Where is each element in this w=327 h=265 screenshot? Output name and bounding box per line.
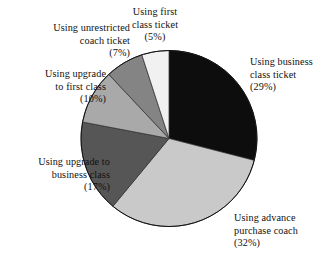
- pie-label-line: Using upgrade to: [0, 156, 110, 169]
- pie-label-percent: (10%): [2, 93, 106, 106]
- pie-label-line: to first class: [2, 81, 106, 94]
- pie-label-line: Using advance: [234, 212, 327, 225]
- pie-label-line: purchase coach: [234, 225, 327, 238]
- pie-label-percent: (7%): [8, 47, 130, 60]
- pie-label-line: coach ticket: [8, 35, 130, 48]
- pie-chart-figure: Using first class ticket (5%) Using unre…: [0, 0, 327, 265]
- pie-label-line: Using upgrade: [2, 68, 106, 81]
- pie-label-line: class ticket: [250, 69, 327, 82]
- pie-label-line: Using first: [106, 6, 204, 19]
- pie-label-percent: (32%): [234, 237, 327, 250]
- pie-label-upgrade-to-first-class: Using upgrade to first class (10%): [2, 68, 106, 106]
- pie-label-line: Using business: [250, 56, 327, 69]
- pie-label-line: business class: [0, 169, 110, 182]
- pie-label-upgrade-to-business-class: Using upgrade to business class (17%): [0, 156, 110, 194]
- pie-label-business-class-ticket: Using business class ticket (29%): [250, 56, 327, 94]
- pie-label-unrestricted-coach-ticket: Using unrestricted coach ticket (7%): [8, 22, 130, 60]
- pie-label-percent: (17%): [0, 181, 110, 194]
- pie-label-line: Using unrestricted: [8, 22, 130, 35]
- pie-label-advance-purchase-coach: Using advance purchase coach (32%): [234, 212, 327, 250]
- pie-label-percent: (29%): [250, 81, 327, 94]
